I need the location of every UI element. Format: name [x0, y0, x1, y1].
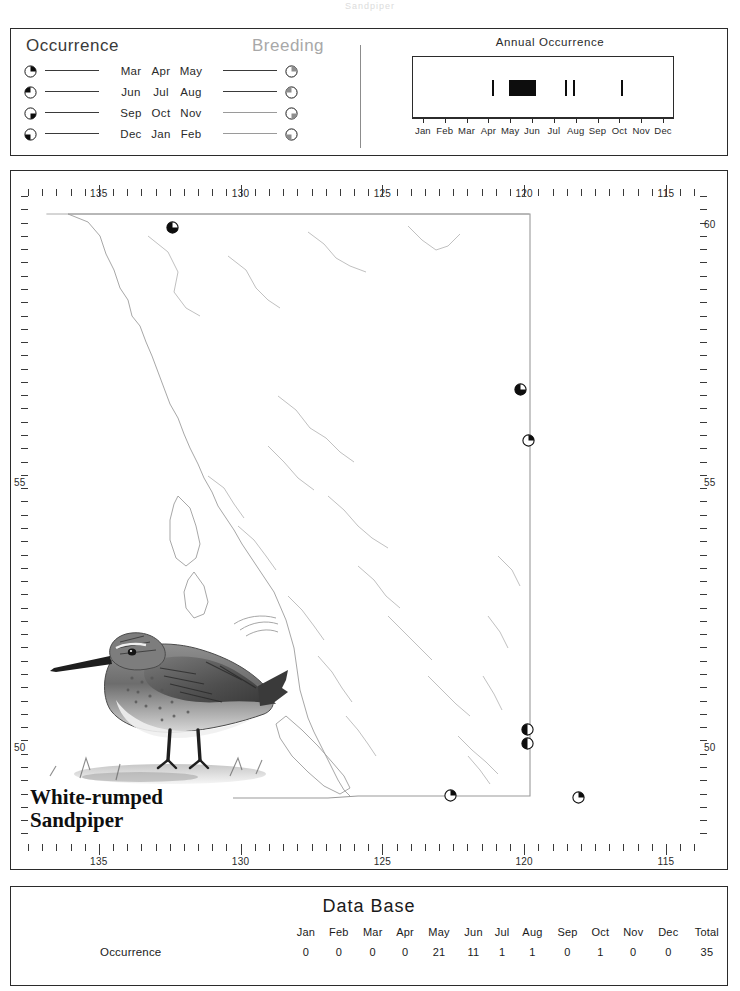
species-name-line2: Sandpiper [30, 809, 330, 832]
table-column-header: Mar [356, 922, 390, 942]
table-cell: 35 [686, 942, 728, 962]
table-column-header: Total [686, 922, 728, 942]
table-row: Occurrence0000211111010035 [10, 942, 728, 962]
table-cell: 0 [390, 942, 421, 962]
table-cell: 0 [550, 942, 585, 962]
table-cell: 0 [651, 942, 686, 962]
table-cell: 0 [616, 942, 651, 962]
map-latitude-label: 60 [704, 219, 716, 230]
database-title: Data Base [10, 896, 728, 917]
table-cell: 21 [420, 942, 457, 962]
table-column-header: Jun [458, 922, 490, 942]
table-column-header: Sep [550, 922, 585, 942]
table-cell: 0 [322, 942, 356, 962]
map-latitude-label: 55 [704, 477, 716, 488]
table-cell: 1 [515, 942, 550, 962]
table-cell: 11 [458, 942, 490, 962]
table-column-header: Feb [322, 922, 356, 942]
table-column-header: Oct [585, 922, 616, 942]
table-header-blank [10, 922, 290, 942]
table-cell: 0 [290, 942, 322, 962]
species-name-line1: White-rumped [30, 786, 330, 809]
map-latitude-label: 50 [704, 742, 716, 753]
table-column-header: Dec [651, 922, 686, 942]
table-column-header: Jan [290, 922, 322, 942]
database-table: JanFebMarAprMayJunJulAugSepOctNovDecTota… [10, 922, 728, 962]
table-column-header: Apr [390, 922, 421, 942]
table-column-header: Aug [515, 922, 550, 942]
table-cell: 0 [356, 942, 390, 962]
table-column-header: Jul [489, 922, 514, 942]
species-name-label: White-rumped Sandpiper [30, 786, 330, 832]
map-latitude-label: 55 [14, 477, 26, 488]
table-column-header: May [420, 922, 457, 942]
map-latitude-labels: 6055555050 [0, 0, 740, 991]
table-header-row: JanFebMarAprMayJunJulAugSepOctNovDecTota… [10, 922, 728, 942]
table-column-header: Nov [616, 922, 651, 942]
table-cell: 1 [585, 942, 616, 962]
table-cell: 1 [489, 942, 514, 962]
table-row-label: Occurrence [10, 942, 290, 962]
sandpiper-illustration [20, 608, 288, 786]
